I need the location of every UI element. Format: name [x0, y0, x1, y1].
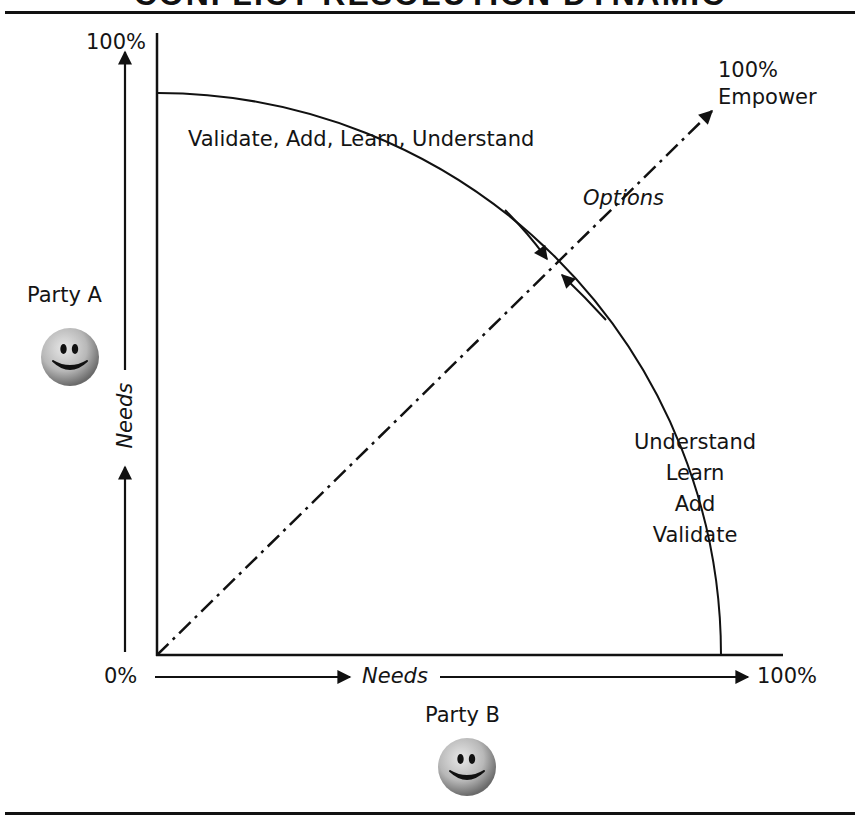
arc-right-label-learn: Learn — [632, 458, 758, 489]
party-b-smiley-icon — [437, 737, 497, 797]
party-b-label: Party B — [425, 703, 500, 728]
x-axis-max-label: 100% — [757, 664, 817, 689]
options-label: Options — [583, 186, 664, 211]
y-axis-needs-label: Needs — [113, 385, 138, 449]
arc-right-label-validate: Validate — [632, 520, 758, 551]
arc-right-label-understand: Understand — [632, 427, 758, 458]
origin-label: 0% — [104, 664, 137, 689]
resolution-arc — [158, 93, 721, 655]
arc-top-label: Validate, Add, Learn, Understand — [188, 127, 534, 152]
empower-text: Empower — [718, 84, 817, 111]
arc-right-label-add: Add — [632, 489, 758, 520]
party-a-smiley-icon — [40, 327, 100, 387]
empower-percent: 100% — [718, 57, 817, 84]
x-axis-needs-label: Needs — [362, 664, 428, 689]
party-a-label: Party A — [27, 283, 102, 308]
empower-label: 100% Empower — [718, 57, 817, 111]
arc-right-labels: Understand Learn Add Validate — [632, 427, 758, 551]
y-axis-max-label: 100% — [86, 30, 146, 55]
